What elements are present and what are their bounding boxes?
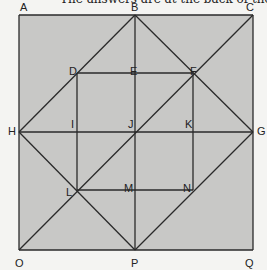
point-label-O: O (15, 257, 24, 269)
point-label-K: K (185, 118, 193, 130)
point-label-J: J (128, 118, 134, 130)
point-label-Q: Q (245, 257, 254, 269)
point-label-N: N (183, 182, 191, 194)
point-label-G: G (257, 125, 266, 137)
point-label-P: P (131, 257, 138, 269)
point-label-M: M (124, 182, 133, 194)
point-label-E: E (130, 65, 137, 77)
diagram-figure: The answers are at the back of the book.… (0, 0, 267, 270)
geometry-diagram: ABCDEFHIJKGLMNOPQ (0, 0, 267, 270)
point-label-H: H (8, 125, 16, 137)
point-label-C: C (246, 1, 254, 13)
point-label-B: B (131, 1, 138, 13)
point-label-D: D (69, 65, 77, 77)
point-label-A: A (20, 1, 28, 13)
point-label-F: F (190, 65, 197, 77)
point-label-I: I (71, 118, 74, 130)
point-label-L: L (66, 186, 72, 198)
